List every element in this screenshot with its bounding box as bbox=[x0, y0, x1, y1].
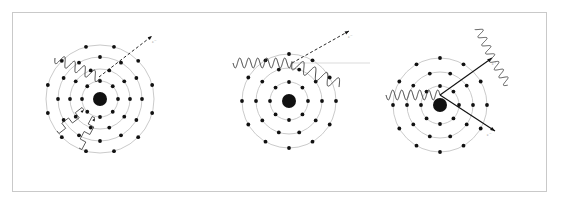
electron-dot bbox=[448, 72, 452, 76]
electron-dot bbox=[301, 113, 305, 117]
electron-dot bbox=[84, 45, 88, 49]
electron-dot bbox=[150, 83, 154, 87]
electron-dot bbox=[98, 115, 102, 119]
electron-dot bbox=[74, 79, 78, 83]
electron-dot bbox=[452, 90, 456, 94]
electron-dot bbox=[397, 80, 401, 84]
electron-dot bbox=[77, 133, 81, 137]
electron-dot bbox=[274, 86, 278, 90]
panel-compton-scattering: e⁻ bbox=[233, 31, 370, 150]
electron-dot bbox=[485, 103, 489, 107]
nucleus bbox=[433, 98, 447, 112]
electron-dot bbox=[112, 45, 116, 49]
electron-dot bbox=[85, 110, 89, 114]
electron-dot bbox=[479, 127, 483, 131]
electron-dot bbox=[136, 135, 140, 139]
electron-dot bbox=[84, 149, 88, 153]
electron-dot bbox=[438, 150, 442, 154]
electron-dot bbox=[68, 97, 72, 101]
electron-dot bbox=[428, 72, 432, 76]
annihilation-photon-1 bbox=[475, 29, 495, 58]
electron-dot bbox=[306, 99, 310, 103]
electron-dot bbox=[438, 122, 442, 126]
electron-dot bbox=[112, 149, 116, 153]
electron-dot bbox=[411, 123, 415, 127]
electron-dot bbox=[274, 113, 278, 117]
electron-dot bbox=[46, 83, 50, 87]
electron-dot bbox=[465, 123, 469, 127]
ejected-electron-label: e⁻ bbox=[348, 34, 353, 39]
electron-dot bbox=[428, 134, 432, 138]
electron-dot bbox=[56, 97, 60, 101]
pair-label-2: e⁻ bbox=[487, 132, 492, 137]
ejected-electron-track bbox=[292, 31, 349, 63]
electron-dot bbox=[438, 84, 442, 88]
electron-dot bbox=[128, 97, 132, 101]
electron-dot bbox=[122, 79, 126, 83]
electron-dot bbox=[136, 59, 140, 63]
figure-canvas: e⁻e⁻e⁺e⁻ bbox=[0, 0, 561, 206]
electron-dot bbox=[246, 76, 250, 80]
electron-dot bbox=[287, 118, 291, 122]
panel-photoelectric-effect: e⁻ bbox=[46, 36, 157, 153]
electron-dot bbox=[98, 139, 102, 143]
electron-dot bbox=[246, 123, 250, 127]
characteristic-xray-arrowhead-2 bbox=[92, 118, 95, 122]
electron-dot bbox=[465, 84, 469, 88]
electron-dot bbox=[111, 110, 115, 114]
electron-dot bbox=[419, 103, 423, 107]
electron-dot bbox=[287, 80, 291, 84]
electron-dot bbox=[415, 144, 419, 148]
electron-dot bbox=[77, 61, 81, 65]
electron-dot bbox=[462, 62, 466, 66]
electron-dot bbox=[448, 134, 452, 138]
electron-dot bbox=[391, 103, 395, 107]
electron-dot bbox=[301, 86, 305, 90]
electron-dot bbox=[297, 130, 301, 134]
annihilation-photon-2 bbox=[490, 58, 509, 86]
electron-dot bbox=[411, 84, 415, 88]
electron-dot bbox=[46, 111, 50, 115]
electron-dot bbox=[397, 127, 401, 131]
electron-dot bbox=[479, 80, 483, 84]
characteristic-xray-2 bbox=[79, 116, 95, 149]
electron-dot bbox=[80, 97, 84, 101]
incoming-photon-wave bbox=[233, 58, 292, 68]
electron-dot bbox=[415, 62, 419, 66]
electron-dot bbox=[150, 111, 154, 115]
electron-dot bbox=[311, 58, 315, 62]
electron-dot bbox=[328, 123, 332, 127]
electron-dot bbox=[264, 140, 268, 144]
electron-dot bbox=[85, 84, 89, 88]
electron-dot bbox=[134, 118, 138, 122]
electron-dot bbox=[277, 130, 281, 134]
electron-dot bbox=[107, 126, 111, 130]
electron-dot bbox=[287, 52, 291, 56]
electron-dot bbox=[452, 117, 456, 121]
electron-dot bbox=[425, 117, 429, 121]
electron-dot bbox=[320, 99, 324, 103]
electron-dot bbox=[254, 99, 258, 103]
electron-dot bbox=[134, 76, 138, 80]
electron-dot bbox=[240, 99, 244, 103]
electron-dot bbox=[405, 103, 409, 107]
characteristic-xray-1 bbox=[57, 107, 84, 133]
electron-dot bbox=[116, 97, 120, 101]
electron-dot bbox=[297, 68, 301, 72]
electron-dot bbox=[140, 97, 144, 101]
ejected-electron-label: e⁻ bbox=[152, 39, 157, 44]
ejected-electron-track bbox=[99, 36, 152, 77]
panel-pair-production: e⁺e⁻ bbox=[386, 29, 508, 154]
electron-dot bbox=[119, 133, 123, 137]
electron-dot bbox=[287, 146, 291, 150]
electron-dot bbox=[314, 119, 318, 123]
electron-dot bbox=[62, 76, 66, 80]
electron-dot bbox=[60, 135, 64, 139]
electron-dot bbox=[462, 144, 466, 148]
electron-dot bbox=[119, 61, 123, 65]
characteristic-xray-arrowhead-1 bbox=[81, 110, 84, 113]
electron-dot bbox=[260, 119, 264, 123]
electron-dot bbox=[311, 140, 315, 144]
electron-dot bbox=[111, 84, 115, 88]
pair-arrowhead-2 bbox=[490, 127, 495, 131]
